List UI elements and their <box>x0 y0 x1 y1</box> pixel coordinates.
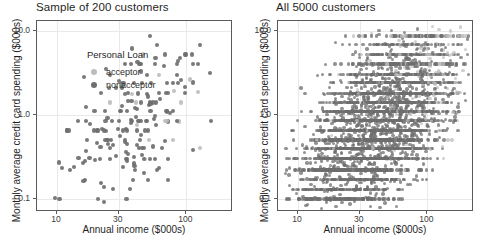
data-point-nonacceptor <box>354 43 357 46</box>
data-point-nonacceptor <box>316 74 319 77</box>
gridline-horizontal <box>37 199 231 200</box>
data-point-nonacceptor <box>339 62 342 65</box>
data-point-acceptor <box>386 62 389 65</box>
data-point-nonacceptor <box>312 133 315 136</box>
data-point-nonacceptor <box>403 134 406 137</box>
data-point-nonacceptor <box>136 91 140 95</box>
data-point-acceptor <box>462 34 465 37</box>
data-point-acceptor <box>390 34 393 37</box>
data-point-nonacceptor <box>349 168 352 171</box>
data-point-nonacceptor <box>361 147 364 150</box>
legend-entry-nonacceptor[interactable]: nonacceptor <box>87 78 156 91</box>
data-point-nonacceptor <box>117 119 121 123</box>
data-point-nonacceptor <box>391 152 394 155</box>
data-point-nonacceptor <box>407 57 410 60</box>
data-point-nonacceptor <box>344 183 347 186</box>
data-point-nonacceptor <box>427 138 430 141</box>
data-point-nonacceptor <box>95 128 99 132</box>
data-point-nonacceptor <box>190 52 194 56</box>
legend-entry-acceptor[interactable]: acceptor <box>87 65 156 78</box>
data-point-nonacceptor <box>335 144 338 147</box>
data-point-nonacceptor <box>374 185 377 188</box>
data-point-nonacceptor <box>411 150 414 153</box>
data-point-nonacceptor <box>363 85 366 88</box>
data-point-nonacceptor <box>110 119 114 123</box>
data-point-nonacceptor <box>452 43 455 46</box>
data-point-nonacceptor <box>415 52 418 55</box>
data-point-nonacceptor <box>379 132 382 135</box>
data-point-nonacceptor <box>369 129 372 132</box>
data-point-nonacceptor <box>421 62 424 65</box>
data-point-acceptor <box>428 62 431 65</box>
data-point-nonacceptor <box>442 138 445 141</box>
data-point-acceptor <box>464 48 467 51</box>
data-point-nonacceptor <box>417 138 420 141</box>
data-point-nonacceptor <box>132 155 136 159</box>
data-point-nonacceptor <box>393 147 396 150</box>
data-point-nonacceptor <box>341 43 344 46</box>
data-point-nonacceptor <box>111 187 115 191</box>
data-point-nonacceptor <box>304 197 307 200</box>
data-point-nonacceptor <box>415 62 418 65</box>
data-point-nonacceptor <box>320 152 323 155</box>
data-point-nonacceptor <box>377 66 380 69</box>
data-point-nonacceptor <box>208 71 212 75</box>
data-point-nonacceptor <box>299 171 302 174</box>
data-point-nonacceptor <box>87 156 91 160</box>
data-point-nonacceptor <box>390 138 393 141</box>
data-point-nonacceptor <box>390 129 393 132</box>
data-point-nonacceptor <box>422 147 425 150</box>
data-point-nonacceptor <box>364 132 367 135</box>
data-point-nonacceptor <box>423 47 426 50</box>
data-point-nonacceptor <box>358 56 361 59</box>
data-point-nonacceptor <box>360 129 363 132</box>
data-point-nonacceptor <box>124 197 128 201</box>
data-point-acceptor <box>198 146 202 150</box>
data-point-nonacceptor <box>88 122 92 126</box>
data-point-nonacceptor <box>310 197 313 200</box>
data-point-nonacceptor <box>98 145 102 149</box>
data-point-acceptor <box>454 77 457 80</box>
x-tick-label: 10 <box>51 214 60 224</box>
data-point-nonacceptor <box>437 119 440 122</box>
facet-title-left: Sample of 200 customers <box>36 1 169 13</box>
data-point-nonacceptor <box>371 91 374 94</box>
data-point-nonacceptor <box>455 73 458 76</box>
data-point-nonacceptor <box>364 73 367 76</box>
data-point-nonacceptor <box>394 62 397 65</box>
data-point-nonacceptor <box>196 62 200 66</box>
data-point-nonacceptor <box>171 81 175 85</box>
data-point-nonacceptor <box>342 132 345 135</box>
x-tick-mark <box>185 211 186 214</box>
data-point-nonacceptor <box>293 168 296 171</box>
data-point-nonacceptor <box>397 123 400 126</box>
data-point-nonacceptor <box>365 47 368 50</box>
data-point-nonacceptor <box>163 52 167 56</box>
data-point-nonacceptor <box>440 48 443 51</box>
data-point-nonacceptor <box>324 148 327 151</box>
data-point-nonacceptor <box>334 41 337 44</box>
x-tick-label: 30 <box>113 214 122 224</box>
data-point-acceptor <box>450 138 453 141</box>
data-point-nonacceptor <box>399 180 402 183</box>
data-point-nonacceptor <box>379 110 382 113</box>
data-point-nonacceptor <box>397 197 400 200</box>
data-point-nonacceptor <box>139 133 143 137</box>
data-point-nonacceptor <box>329 92 332 95</box>
data-point-nonacceptor <box>408 110 411 113</box>
data-point-nonacceptor <box>348 43 351 46</box>
data-point-acceptor <box>366 53 369 56</box>
data-point-nonacceptor <box>102 128 106 132</box>
data-point-nonacceptor <box>361 43 364 46</box>
data-point-nonacceptor <box>466 53 469 56</box>
y-tick-mark <box>274 30 277 31</box>
gridline-vertical <box>186 21 187 210</box>
data-point-nonacceptor <box>386 124 389 127</box>
data-point-nonacceptor <box>408 62 411 65</box>
data-point-acceptor <box>451 111 454 114</box>
data-point-nonacceptor <box>355 110 358 113</box>
data-point-nonacceptor <box>305 147 308 150</box>
data-point-acceptor <box>394 73 397 76</box>
data-point-acceptor <box>437 129 440 132</box>
data-point-nonacceptor <box>457 110 460 113</box>
